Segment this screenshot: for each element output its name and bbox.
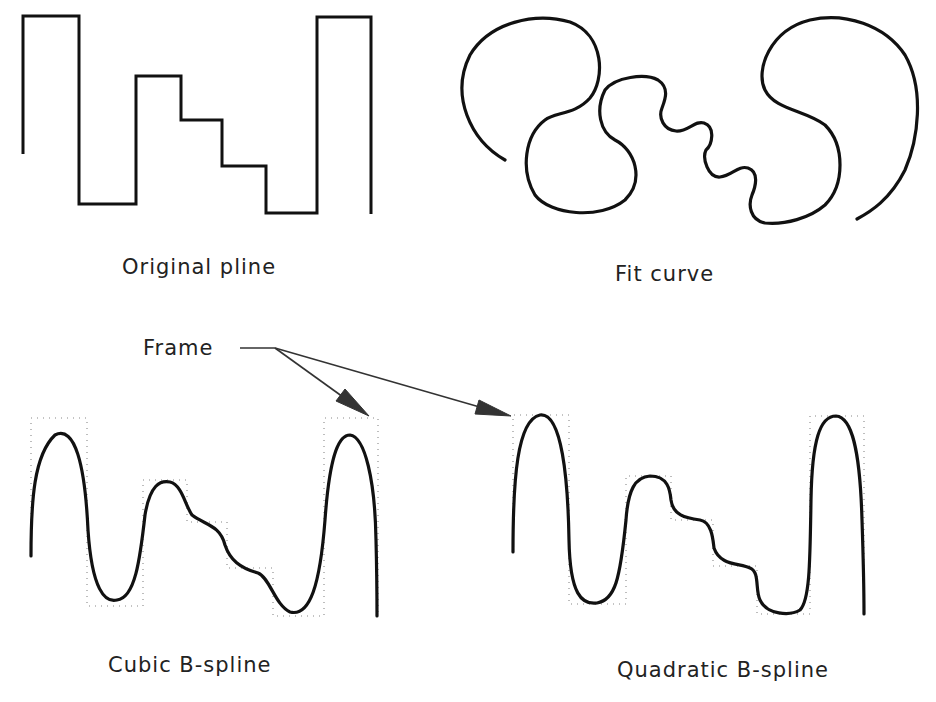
fit-curve-panel: Fit curve bbox=[462, 18, 917, 286]
original-pline-label: Original pline bbox=[122, 255, 276, 279]
cubic-bspline-curve bbox=[31, 433, 377, 616]
fit-curve-label: Fit curve bbox=[615, 262, 714, 286]
frame-arrowhead-quadratic bbox=[475, 400, 511, 416]
cubic-bspline-label: Cubic B-spline bbox=[108, 653, 272, 677]
quadratic-bspline-panel: Quadratic B-spline bbox=[513, 415, 864, 682]
quadratic-bspline-curve bbox=[513, 415, 864, 614]
original-pline-panel: Original pline bbox=[23, 16, 371, 279]
frame-arrowhead-cubic bbox=[336, 389, 369, 416]
frame-arrow-shaft-quadratic bbox=[275, 348, 490, 410]
original-polyline bbox=[23, 16, 371, 214]
quadratic-bspline-label: Quadratic B-spline bbox=[617, 658, 829, 682]
frame-label: Frame bbox=[143, 336, 213, 360]
frame-callout: Frame bbox=[143, 336, 511, 416]
frame-arrow-shaft-cubic bbox=[275, 348, 350, 402]
cubic-bspline-panel: Cubic B-spline bbox=[31, 418, 378, 677]
diagram-canvas: Original pline Fit curve Frame Cubic B-s… bbox=[0, 0, 936, 702]
fit-curve bbox=[462, 18, 917, 224]
